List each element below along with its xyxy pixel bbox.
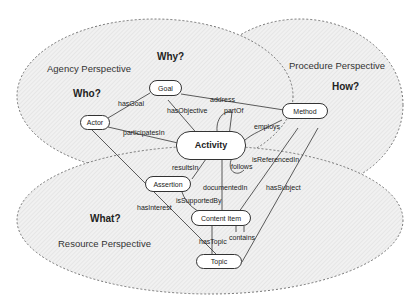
edge-label-is-referenced-in: isReferencedIn — [252, 156, 299, 163]
node-activity[interactable]: Activity — [176, 131, 246, 160]
edge-label-has-subject: hasSubject — [266, 184, 301, 191]
why-question: Why? — [157, 52, 184, 62]
edge-label-follows: follows — [231, 163, 252, 170]
procedure-perspective-label: Procedure Perspective — [289, 61, 385, 71]
edge-label-has-goal: hasGoal — [118, 100, 144, 107]
node-content-item[interactable]: Content Item — [191, 210, 251, 226]
edge-label-participates-in: participatesIn — [123, 129, 165, 136]
edge-label-is-supported-by: isSupportedBy — [176, 197, 222, 204]
node-topic[interactable]: Topic — [196, 254, 242, 269]
node-assertion[interactable]: Assertion — [145, 176, 191, 192]
edge-label-has-topic: hasTopic — [199, 238, 227, 245]
what-question: What? — [90, 214, 121, 224]
how-question: How? — [332, 82, 359, 92]
who-question: Who? — [73, 89, 101, 99]
edge-label-documented-in: documentedIn — [203, 184, 247, 191]
edge-label-address: address — [210, 96, 235, 103]
edge-label-has-interest: hasInterest — [137, 204, 172, 211]
edge-label-part-of: partOf — [224, 107, 243, 114]
resource-perspective-label: Resource Perspective — [58, 239, 151, 249]
node-actor[interactable]: Actor — [80, 115, 110, 130]
edge-label-employs: employs — [254, 123, 280, 130]
edge-label-results-in: resultsIn — [172, 164, 198, 171]
edge-label-has-objective: hasObjective — [167, 107, 207, 114]
node-goal[interactable]: Goal — [149, 80, 182, 96]
edge-label-contains: contains — [229, 234, 255, 241]
node-method[interactable]: Method — [282, 103, 328, 119]
agency-perspective-label: Agency Perspective — [47, 64, 131, 74]
